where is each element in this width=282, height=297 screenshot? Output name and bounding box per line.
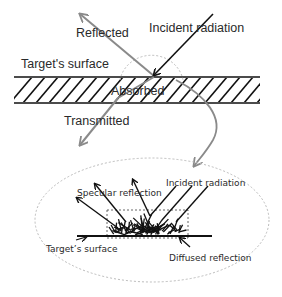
label-absorbed: Absorbed [111,84,165,98]
surface-pointer-arrow [76,237,86,240]
specular-ray [77,198,118,228]
hatch-line [205,77,227,103]
radiation-interaction-diagram: Reflected Incident radiation Target's su… [0,0,282,297]
label-targets-surface: Target's surface [21,57,109,71]
hatch-line [231,77,253,103]
hatch-line [244,77,266,103]
top-panel: Reflected Incident radiation Target's su… [10,14,282,166]
hatch-line [36,77,58,103]
incident-ray [162,186,192,220]
hatch-line [88,77,110,103]
hatch-line [10,77,32,103]
hatch-line [218,77,240,103]
bottom-panel: Specular reflection Incident radiation T… [35,158,269,282]
label-specular-reflection: Specular reflection [77,188,162,198]
incident-ray [176,186,208,222]
zoom-link-arrow [176,80,217,166]
label-diffused-reflection: Diffused reflection [169,253,252,263]
hatch-line [75,77,97,103]
diffuse-scatter [109,214,187,235]
specular-ray [133,180,150,216]
hatch-line [23,77,45,103]
detail-ellipse [35,158,269,282]
label-incident-radiation: Incident radiation [149,21,244,35]
hatch-line [270,77,282,103]
hatch-line [62,77,84,103]
label-targets-surface-detail: Target’s surface [45,244,118,254]
label-reflected: Reflected [76,26,129,40]
hatch-line [49,77,71,103]
label-incident-radiation-detail: Incident radiation [166,178,245,188]
hatch-line [257,77,279,103]
diffuse-pointer-arrow [180,238,190,247]
label-transmitted: Transmitted [64,114,130,128]
hatch-line [179,77,201,103]
